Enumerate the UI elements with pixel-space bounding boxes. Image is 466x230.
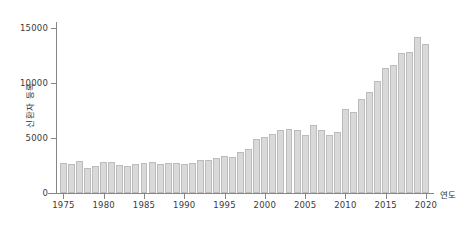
bar <box>261 137 268 193</box>
bar <box>398 53 405 193</box>
bar <box>350 112 357 193</box>
bar <box>342 109 349 193</box>
bar <box>124 166 131 193</box>
x-tick-mark <box>63 194 64 199</box>
x-tick-label: 2010 <box>334 200 356 210</box>
bar <box>213 158 220 193</box>
bar <box>269 134 276 193</box>
bar <box>108 162 115 193</box>
bar <box>286 129 293 193</box>
bar <box>84 168 91 193</box>
bar <box>358 99 365 193</box>
x-tick-label: 1990 <box>173 200 195 210</box>
y-tick-label: 10000 <box>20 78 48 88</box>
bar <box>253 139 260 193</box>
bar <box>302 135 309 193</box>
plot-area <box>57 23 434 193</box>
y-tick-mark <box>51 193 57 194</box>
x-tick-label: 2015 <box>374 200 396 210</box>
bar <box>422 44 429 193</box>
bar <box>189 163 196 193</box>
bar <box>277 130 284 193</box>
bar <box>229 157 236 193</box>
x-tick-label: 1980 <box>93 200 115 210</box>
bar <box>221 156 228 193</box>
x-axis-title: 연도 <box>440 188 457 200</box>
bar <box>334 132 341 193</box>
x-tick-mark <box>225 194 226 199</box>
bar <box>382 68 389 193</box>
x-tick-label: 1985 <box>133 200 155 210</box>
bar <box>294 130 301 193</box>
x-tick-label: 1975 <box>52 200 74 210</box>
bar <box>100 162 107 193</box>
bar <box>181 164 188 193</box>
bar <box>141 163 148 193</box>
bar <box>173 163 180 193</box>
x-tick-mark <box>144 194 145 199</box>
bar <box>68 164 75 193</box>
bar <box>390 65 397 193</box>
bar <box>406 52 413 193</box>
x-tick-mark <box>345 194 346 199</box>
y-tick-label: 15000 <box>20 23 48 33</box>
bar <box>366 92 373 193</box>
x-tick-mark <box>184 194 185 199</box>
bar <box>132 164 139 193</box>
y-axis-title: 신환자 등록 <box>23 82 35 127</box>
bar <box>318 130 325 193</box>
bar <box>374 81 381 193</box>
bar <box>149 162 156 193</box>
x-tick-mark <box>265 194 266 199</box>
bar <box>310 125 317 193</box>
x-axis-line <box>48 193 434 194</box>
bar <box>197 160 204 193</box>
x-tick-mark <box>305 194 306 199</box>
x-tick-mark <box>426 194 427 199</box>
bar <box>60 163 67 193</box>
bar <box>414 37 421 193</box>
x-tick-label: 2020 <box>415 200 437 210</box>
y-axis-title-container: 신환자 등록 <box>2 60 20 150</box>
bar <box>157 164 164 193</box>
x-tick-label: 1995 <box>213 200 235 210</box>
y-tick-label: 5000 <box>26 133 48 143</box>
bar <box>205 160 212 193</box>
x-tick-label: 2000 <box>254 200 276 210</box>
bar <box>116 165 123 193</box>
bar-chart: 신환자 등록 연도 050001000015000 19751980198519… <box>0 0 466 230</box>
bar <box>76 161 83 193</box>
bar <box>245 149 252 193</box>
x-tick-mark <box>104 194 105 199</box>
y-tick-label: 0 <box>42 188 48 198</box>
bar <box>92 166 99 193</box>
x-tick-label: 2005 <box>294 200 316 210</box>
bar <box>165 163 172 193</box>
bar <box>237 152 244 193</box>
bar <box>326 135 333 193</box>
x-tick-mark <box>386 194 387 199</box>
